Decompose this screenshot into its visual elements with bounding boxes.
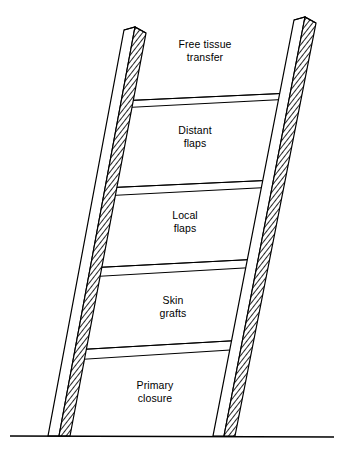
- rung-1: [118, 93, 292, 108]
- ground-line: [10, 436, 334, 437]
- reconstructive-ladder-figure: Free tissue transfer Distant flaps Local…: [0, 0, 340, 450]
- label-distant-flaps: Distant flaps: [140, 124, 250, 150]
- label-local-flaps: Local flaps: [130, 209, 240, 235]
- label-primary-closure: Primary closure: [100, 379, 210, 405]
- rung-3: [87, 259, 261, 277]
- rung-2: [102, 180, 276, 196]
- label-free-tissue-transfer: Free tissue transfer: [150, 38, 260, 64]
- label-skin-grafts: Skin grafts: [118, 294, 228, 320]
- rung-4: [72, 340, 246, 360]
